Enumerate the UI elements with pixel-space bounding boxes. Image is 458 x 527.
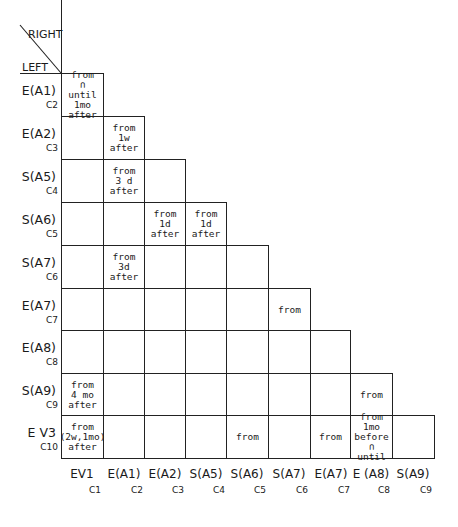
row-sublabel: C3 bbox=[6, 143, 58, 153]
matrix-cell bbox=[103, 415, 145, 459]
column-label: S(A7) bbox=[268, 467, 310, 481]
matrix-cell bbox=[144, 159, 186, 203]
row-sublabel: C2 bbox=[6, 100, 58, 110]
corner-right-label: RIGHT bbox=[28, 28, 62, 41]
matrix-cell: from (2w,1mo) after bbox=[61, 415, 104, 459]
row-label: E(A2) bbox=[4, 126, 56, 141]
row-label: S(A6) bbox=[4, 212, 56, 227]
matrix-cell bbox=[144, 288, 186, 331]
matrix-cell bbox=[185, 330, 227, 374]
row-label: E(A1) bbox=[4, 83, 56, 98]
column-sublabel: C1 bbox=[89, 485, 101, 495]
matrix-cell: from bbox=[310, 415, 351, 459]
column-label: E (A8) bbox=[350, 467, 392, 481]
matrix-cell bbox=[61, 288, 104, 331]
column-sublabel: C4 bbox=[213, 485, 225, 495]
row-label: S(A9) bbox=[4, 383, 56, 398]
matrix-cell bbox=[61, 116, 104, 160]
matrix-cell: from 1mo before ∩ until bbox=[350, 415, 393, 459]
matrix-cell: from 3 d after bbox=[103, 159, 145, 203]
column-label: S(A9) bbox=[392, 467, 434, 481]
matrix-cell bbox=[61, 159, 104, 203]
matrix-cell bbox=[392, 415, 435, 459]
matrix-cell bbox=[268, 373, 311, 416]
column-sublabel: C8 bbox=[378, 485, 390, 495]
matrix-cell bbox=[61, 202, 104, 246]
column-label: E(A1) bbox=[103, 467, 145, 481]
matrix-cell bbox=[103, 202, 145, 246]
matrix-cell bbox=[268, 330, 311, 374]
matrix-cell bbox=[226, 245, 269, 289]
matrix-cell: from 4 mo after bbox=[61, 373, 104, 416]
column-sublabel: C7 bbox=[338, 485, 350, 495]
matrix-cell bbox=[103, 288, 145, 331]
matrix-cell bbox=[310, 373, 351, 416]
row-sublabel: C7 bbox=[6, 315, 58, 325]
matrix-cell bbox=[185, 288, 227, 331]
matrix-cell bbox=[103, 330, 145, 374]
column-label: E(A2) bbox=[144, 467, 186, 481]
column-sublabel: C5 bbox=[254, 485, 266, 495]
matrix-cell bbox=[144, 245, 186, 289]
matrix-cell bbox=[226, 330, 269, 374]
column-label: S(A5) bbox=[185, 467, 227, 481]
matrix-cell bbox=[268, 415, 311, 459]
matrix-cell: from 1d after bbox=[144, 202, 186, 246]
row-sublabel: C6 bbox=[6, 272, 58, 282]
column-label: EV1 bbox=[61, 467, 103, 481]
matrix-cell bbox=[61, 245, 104, 289]
column-sublabel: C3 bbox=[172, 485, 184, 495]
matrix-cell bbox=[103, 373, 145, 416]
column-sublabel: C2 bbox=[131, 485, 143, 495]
matrix-cell: from 3d after bbox=[103, 245, 145, 289]
matrix-cell bbox=[144, 330, 186, 374]
column-label: E(A7) bbox=[310, 467, 352, 481]
row-sublabel: C4 bbox=[6, 186, 58, 196]
matrix-cell bbox=[310, 330, 351, 374]
row-sublabel: C9 bbox=[6, 400, 58, 410]
row-sublabel: C8 bbox=[6, 357, 58, 367]
row-label: S(A5) bbox=[4, 169, 56, 184]
row-label: E V3 bbox=[4, 425, 56, 440]
matrix-cell bbox=[144, 373, 186, 416]
row-label: E(A8) bbox=[4, 340, 56, 355]
corner-left-label: LEFT bbox=[22, 61, 48, 74]
row-sublabel: C5 bbox=[6, 229, 58, 239]
column-sublabel: C6 bbox=[296, 485, 308, 495]
matrix-cell bbox=[61, 330, 104, 374]
matrix-cell bbox=[144, 415, 186, 459]
matrix-cell: from 1d after bbox=[185, 202, 227, 246]
row-sublabel: C10 bbox=[6, 442, 58, 452]
row-label: S(A7) bbox=[4, 255, 56, 270]
matrix-cell bbox=[185, 373, 227, 416]
matrix-cell bbox=[185, 245, 227, 289]
matrix-cell: from bbox=[350, 373, 393, 416]
matrix-cell: from bbox=[226, 415, 269, 459]
matrix-cell bbox=[226, 288, 269, 331]
matrix-cell bbox=[185, 415, 227, 459]
matrix-cell: from 1w after bbox=[103, 116, 145, 160]
column-sublabel: C9 bbox=[420, 485, 432, 495]
row-label: E(A7) bbox=[4, 298, 56, 313]
column-label: S(A6) bbox=[226, 467, 268, 481]
matrix-cell: from bbox=[268, 288, 311, 331]
matrix-cell bbox=[226, 373, 269, 416]
matrix-cell: from ∩ until 1mo after bbox=[61, 73, 104, 117]
